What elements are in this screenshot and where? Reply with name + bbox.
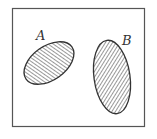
set-b-label: B bbox=[121, 33, 132, 48]
venn-diagram: A B bbox=[0, 0, 157, 139]
set-a-label: A bbox=[35, 28, 45, 43]
